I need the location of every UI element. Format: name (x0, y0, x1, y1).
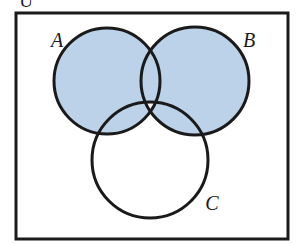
set-label-a: A (49, 29, 64, 51)
set-label-b: B (243, 29, 255, 51)
venn-diagram-figure: A B C U (0, 0, 298, 245)
set-label-c: C (205, 192, 219, 214)
venn-diagram-canvas: A B C U (0, 0, 298, 245)
universe-label: U (19, 0, 33, 11)
